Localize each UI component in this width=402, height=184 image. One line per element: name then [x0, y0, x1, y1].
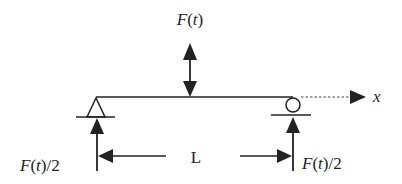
beam-diagram: F(t) F(t)/2 F(t)/2 L x: [0, 0, 402, 184]
pin-support: [76, 98, 115, 117]
roller-support: [271, 98, 311, 115]
right-reaction-label: F(t)/2: [301, 154, 342, 173]
left-reaction-label: F(t)/2: [19, 156, 60, 175]
applied-force-arrow: [183, 43, 197, 97]
right-reaction-arrow: [286, 117, 300, 171]
span-label: L: [191, 148, 201, 167]
axis-label: x: [372, 87, 381, 106]
x-axis: [301, 90, 366, 104]
applied-force-label: F(t): [176, 10, 203, 29]
left-reaction-arrow: [90, 118, 104, 171]
